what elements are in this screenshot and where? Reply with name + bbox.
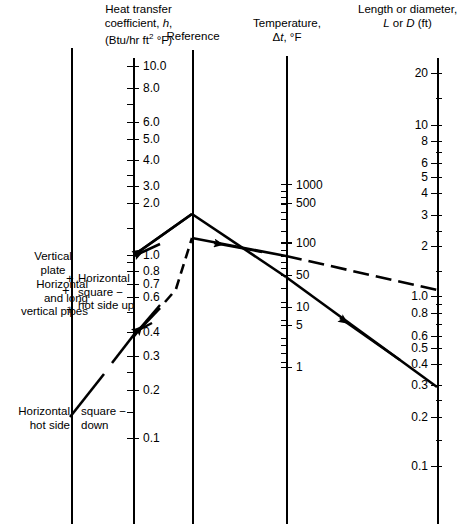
nomograph-figure: Heat transfer coefficient, h, (Btu/hr ft… bbox=[0, 0, 457, 531]
lower-left-line bbox=[70, 305, 160, 417]
construction-line-dashed bbox=[139, 238, 437, 330]
solution-lines-layer bbox=[0, 0, 457, 531]
construction-line-upper bbox=[134, 214, 437, 387]
